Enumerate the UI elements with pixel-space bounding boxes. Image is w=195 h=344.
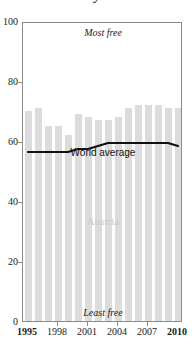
x-axis-tick-label: 2004 — [107, 326, 127, 337]
x-axis-tick-label: 2010 — [167, 326, 187, 337]
y-axis-tick-label: 100 — [0, 17, 18, 27]
y-axis-tick-label: 80 — [0, 77, 18, 87]
chart-title-remnant: y — [0, 0, 195, 10]
y-axis-tick-label: 20 — [0, 257, 18, 267]
y-axis-tick-label: 40 — [0, 197, 18, 207]
x-axis-tick-label: 1995 — [17, 326, 37, 337]
x-axis-tick-mark — [57, 322, 58, 326]
line-series-world-average — [23, 23, 182, 322]
annotation-most-free: Most free — [23, 27, 182, 38]
series-label-austria: Austria — [23, 215, 182, 227]
x-axis-tick-mark — [117, 322, 118, 326]
x-axis-tick-label: 2007 — [137, 326, 157, 337]
x-axis-tick-label: 1998 — [47, 326, 67, 337]
freedom-index-chart: y 020406080100 199519982001200420072010 … — [0, 0, 195, 344]
x-axis-tick-label: 2001 — [77, 326, 97, 337]
annotation-least-free: Least free — [23, 307, 182, 318]
x-axis-tick-mark — [147, 322, 148, 326]
x-axis-tick-mark — [87, 322, 88, 326]
plot-area: Most free Austria World average Least fr… — [22, 22, 182, 322]
y-axis-tick-label: 60 — [0, 137, 18, 147]
y-axis-tick-label: 0 — [0, 317, 18, 327]
series-label-world-average: World average — [23, 147, 182, 158]
